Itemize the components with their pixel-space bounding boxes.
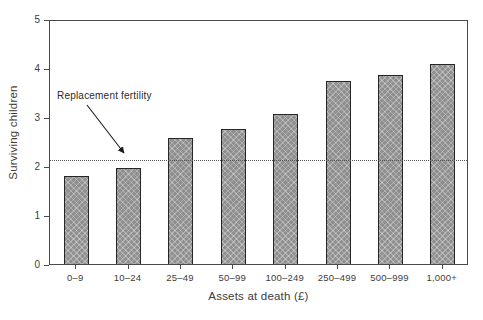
y-axis-tick-mark [44, 265, 49, 266]
x-axis-title: Assets at death (£) [49, 290, 468, 302]
plot-area [49, 20, 468, 265]
y-axis-title: Surviving children [2, 0, 24, 265]
y-axis-tick-label: 4 [0, 62, 49, 76]
chart-figure: Surviving children Assets at death (£) 0… [0, 0, 483, 320]
x-axis-tick-mark [128, 265, 129, 269]
x-axis-tick-mark [180, 265, 181, 269]
x-axis-tick-mark [337, 265, 338, 269]
bar [326, 81, 351, 264]
x-axis-tick-mark [285, 265, 286, 269]
x-axis-tick-label: 1,000+ [407, 272, 477, 283]
annotation-label: Replacement fertility [57, 90, 152, 101]
plot-inner [50, 21, 467, 264]
y-axis-tick-label: 2 [0, 160, 49, 174]
bar [378, 75, 403, 264]
replacement-fertility-line [50, 160, 467, 161]
bar [273, 114, 298, 264]
bar [221, 129, 246, 264]
bar [116, 168, 141, 264]
bar [64, 176, 89, 264]
y-axis-tick-label: 0 [0, 258, 49, 272]
y-axis-tick-label: 3 [0, 111, 49, 125]
bar [168, 138, 193, 264]
x-axis-tick-mark [442, 265, 443, 269]
x-axis-tick-mark [232, 265, 233, 269]
y-axis-tick-label: 1 [0, 209, 49, 223]
x-axis-tick-mark [389, 265, 390, 269]
x-axis-tick-mark [75, 265, 76, 269]
bar [430, 64, 455, 264]
y-axis-tick-label: 5 [0, 13, 49, 27]
